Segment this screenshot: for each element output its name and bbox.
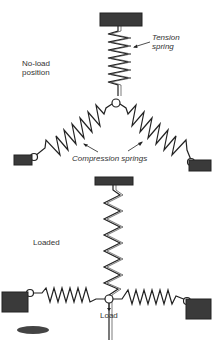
tension-spring [108, 26, 131, 96]
loaded-left-spring [33, 288, 106, 302]
left-anchor-block-top [14, 155, 32, 165]
left-anchor-block-loaded [2, 292, 28, 312]
right-compression-spring [120, 104, 191, 160]
tension-spring-label: Tension spring [152, 33, 180, 51]
loaded-label: Loaded [33, 238, 60, 247]
compression-springs-label: Compression springs [72, 154, 147, 163]
spring-diagram [0, 0, 220, 343]
scan-artifact [17, 326, 49, 334]
no-load-line2: position [22, 68, 50, 77]
loaded-right-spring [113, 290, 186, 304]
center-joint-loaded [105, 295, 113, 303]
center-joint-top [112, 99, 120, 107]
top-anchor-block-loaded [95, 177, 133, 185]
tension-label-line1: Tension [152, 33, 180, 42]
left-compression-spring [35, 104, 112, 156]
load-label: Load [100, 311, 118, 320]
right-anchor-block-loaded [186, 299, 211, 319]
top-anchor-block [100, 13, 142, 26]
no-load-position-label: No-load position [22, 59, 50, 77]
no-load-line1: No-load [22, 59, 50, 68]
tension-label-line2: spring [152, 42, 180, 51]
right-anchor-block-top [189, 160, 211, 171]
